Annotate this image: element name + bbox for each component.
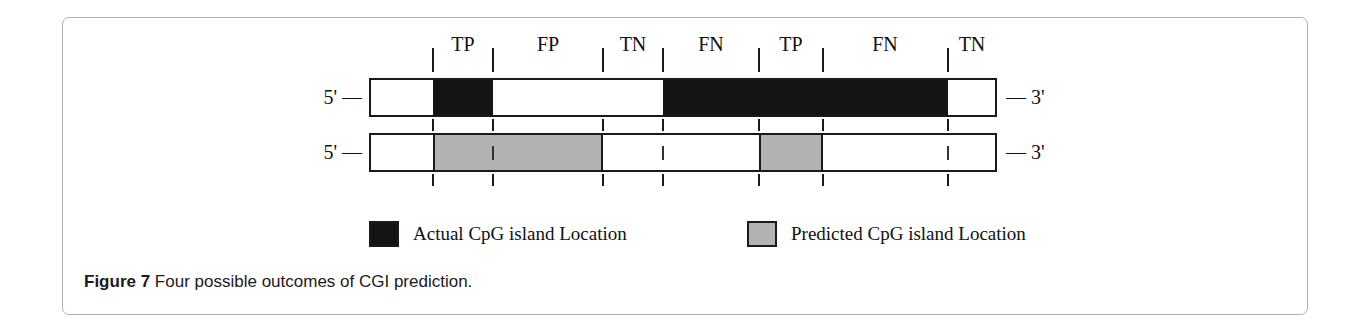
segment-label-2: TN	[603, 33, 663, 55]
figure-caption: Figure 7 Four possible outcomes of CGI p…	[84, 272, 472, 292]
segment-label-5: FN	[855, 33, 915, 55]
legend-item-1: Predicted CpG island Location	[747, 219, 1026, 249]
interior-boundary-dash-2	[947, 146, 949, 160]
segment-label-0: TP	[433, 33, 493, 55]
predicted-swatch	[747, 221, 777, 247]
boundary-tick-1	[492, 174, 494, 186]
legend-label-0: Actual CpG island Location	[413, 223, 627, 245]
actual-five-prime-label: 5' —	[300, 78, 362, 117]
segment-label-1: FP	[518, 33, 578, 55]
boundary-tick-3	[662, 119, 664, 131]
actual-three-prime-label: — 3'	[1006, 78, 1076, 117]
boundary-tick-5	[822, 174, 824, 186]
legend-item-0: Actual CpG island Location	[369, 219, 627, 249]
segment-label-4: TP	[761, 33, 821, 55]
boundary-tick-4	[758, 48, 760, 72]
boundary-tick-5	[822, 119, 824, 131]
predicted-island-block-0	[433, 135, 603, 170]
figure-caption-text: Four possible outcomes of CGI prediction…	[155, 272, 472, 291]
boundary-tick-4	[758, 119, 760, 131]
predicted-island-block-1	[759, 135, 823, 170]
boundary-tick-2	[602, 119, 604, 131]
legend-label-1: Predicted CpG island Location	[791, 223, 1026, 245]
segment-label-3: FN	[681, 33, 741, 55]
predicted-three-prime-label: — 3'	[1006, 133, 1076, 172]
boundary-tick-1	[492, 119, 494, 131]
actual-island-block-1	[663, 80, 948, 115]
actual-strand-bar	[369, 78, 997, 117]
boundary-tick-0	[432, 119, 434, 131]
boundary-tick-5	[822, 48, 824, 72]
actual-swatch	[369, 221, 399, 247]
boundary-tick-0	[432, 174, 434, 186]
boundary-tick-4	[758, 174, 760, 186]
boundary-tick-3	[662, 174, 664, 186]
figure-caption-label: Figure 7	[84, 272, 150, 291]
actual-island-block-0	[433, 80, 493, 115]
interior-boundary-dash-1	[662, 146, 664, 160]
predicted-strand-bar	[369, 133, 997, 172]
boundary-tick-2	[602, 174, 604, 186]
segment-label-6: TN	[942, 33, 1002, 55]
boundary-tick-6	[947, 119, 949, 131]
predicted-five-prime-label: 5' —	[300, 133, 362, 172]
interior-boundary-dash-0	[492, 146, 494, 160]
boundary-tick-6	[947, 174, 949, 186]
